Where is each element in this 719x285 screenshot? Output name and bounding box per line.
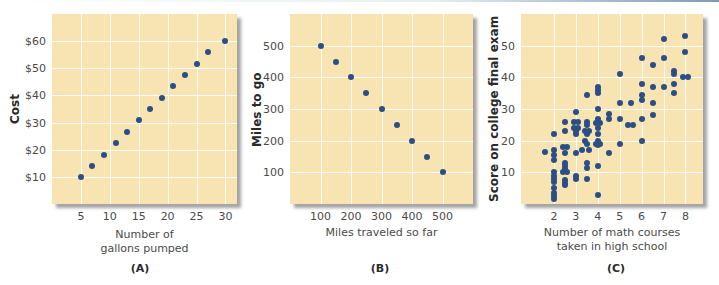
data-point	[586, 147, 592, 153]
y-axis-label: Cost	[8, 94, 22, 124]
grid-line-vertical	[139, 14, 140, 204]
data-point	[639, 81, 645, 87]
x-tick-label: 10	[103, 210, 117, 223]
data-point	[113, 140, 119, 146]
data-point	[617, 71, 623, 77]
x-tick-label: 5	[616, 210, 623, 223]
data-point	[551, 131, 557, 137]
data-point	[409, 138, 415, 144]
grid-line-horizontal	[52, 68, 237, 69]
data-point	[650, 84, 656, 90]
data-point	[562, 182, 568, 188]
data-point	[682, 49, 688, 55]
data-point	[595, 90, 601, 96]
data-point	[595, 125, 601, 131]
x-tick-label: 25	[190, 210, 204, 223]
data-point	[584, 131, 590, 137]
grid-line-horizontal	[521, 46, 703, 47]
data-point	[394, 122, 400, 128]
grid-line-horizontal	[290, 77, 473, 78]
y-tick-label: 500	[244, 39, 284, 52]
data-point	[617, 141, 623, 147]
x-axis-label: Number of math coursestaken in high scho…	[544, 226, 681, 254]
grid-line-horizontal	[290, 172, 473, 173]
data-point	[595, 106, 601, 112]
data-point	[685, 74, 691, 80]
data-point	[661, 55, 667, 61]
x-tick-label: 200	[341, 210, 362, 223]
data-point	[639, 55, 645, 61]
x-axis-label-line: Miles traveled so far	[326, 226, 438, 240]
data-point	[564, 144, 570, 150]
data-point	[628, 100, 634, 106]
data-point	[606, 116, 612, 122]
data-point	[584, 176, 590, 182]
data-point	[650, 100, 656, 106]
data-point	[562, 150, 568, 156]
x-tick-label: 7	[660, 210, 667, 223]
data-point	[124, 129, 130, 135]
data-point	[205, 49, 211, 55]
data-point	[562, 119, 568, 125]
grid-line-vertical	[168, 14, 169, 204]
x-axis-label-line: taken in high school	[544, 240, 681, 254]
chart-caption: (C)	[607, 262, 625, 275]
x-tick-label: 8	[682, 210, 689, 223]
y-axis-label: Miles to go	[250, 72, 264, 147]
x-tick-label: 100	[310, 210, 331, 223]
chart-caption: (B)	[371, 262, 389, 275]
grid-line-horizontal	[521, 77, 703, 78]
data-point	[222, 38, 228, 44]
x-tick-label: 2	[550, 210, 557, 223]
data-point	[584, 92, 590, 98]
x-tick-label: 300	[371, 210, 392, 223]
data-point	[564, 169, 570, 175]
data-point	[101, 152, 107, 158]
data-point	[671, 90, 677, 96]
data-point	[136, 117, 142, 123]
data-point	[671, 81, 677, 87]
data-point	[333, 59, 339, 65]
data-point	[595, 131, 601, 137]
data-point	[542, 149, 548, 155]
chart-caption: (A)	[131, 262, 150, 275]
data-point	[595, 142, 601, 148]
data-point	[584, 122, 590, 128]
data-point	[650, 112, 656, 118]
data-point	[318, 43, 324, 49]
data-point	[159, 95, 165, 101]
data-point	[661, 36, 667, 42]
data-point	[650, 62, 656, 68]
y-axis-label: Score on college final exam	[487, 16, 501, 202]
data-point	[579, 147, 585, 153]
data-point	[617, 100, 623, 106]
x-axis-label: Miles traveled so far	[326, 226, 438, 240]
y-tick-label: $50	[6, 62, 46, 75]
data-point	[363, 90, 369, 96]
data-point	[170, 83, 176, 89]
data-point	[630, 122, 636, 128]
data-point	[551, 157, 557, 163]
data-point	[379, 106, 385, 112]
y-tick-label: $60	[6, 35, 46, 48]
x-tick-label: 6	[638, 210, 645, 223]
data-point	[573, 131, 579, 137]
data-point	[440, 169, 446, 175]
plot-area	[290, 14, 473, 204]
grid-line-horizontal	[52, 41, 237, 42]
data-point	[551, 196, 557, 202]
top-border-line	[0, 0, 719, 2]
data-point	[584, 141, 590, 147]
data-point	[639, 138, 645, 144]
grid-line-horizontal	[52, 95, 237, 96]
x-tick-label: 15	[132, 210, 146, 223]
x-axis-label: Number ofgallons pumped	[100, 228, 188, 256]
data-point	[575, 119, 581, 125]
x-tick-label: 4	[594, 210, 601, 223]
grid-line-vertical	[110, 14, 111, 204]
plot-area	[521, 14, 703, 204]
x-tick-label: 400	[402, 210, 423, 223]
data-point	[573, 150, 579, 156]
data-point	[424, 154, 430, 160]
data-point	[348, 74, 354, 80]
